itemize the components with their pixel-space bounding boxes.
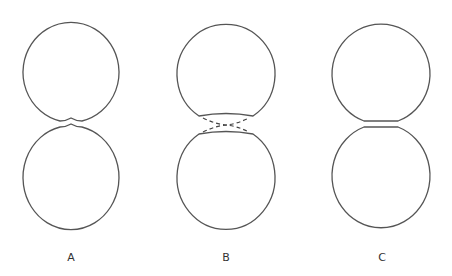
figure-canvas [0, 0, 452, 276]
panel-b-upper-sphere [177, 24, 275, 116]
panel-label-a: A [67, 251, 75, 264]
panel-a-drawing [23, 22, 119, 229]
panel-c-drawing [332, 24, 430, 228]
panel-b-bridge-lines [203, 118, 249, 125]
panel-a-upper-sphere [23, 22, 119, 121]
panel-a-lower-sphere [23, 124, 119, 230]
panel-b-lower-sphere [177, 132, 275, 230]
panel-c-lower-sphere [332, 127, 430, 228]
panel-label-c: C [378, 251, 386, 264]
panel-label-b: B [222, 251, 230, 264]
panel-b-drawing [177, 24, 275, 229]
panel-c-upper-sphere [332, 24, 430, 121]
